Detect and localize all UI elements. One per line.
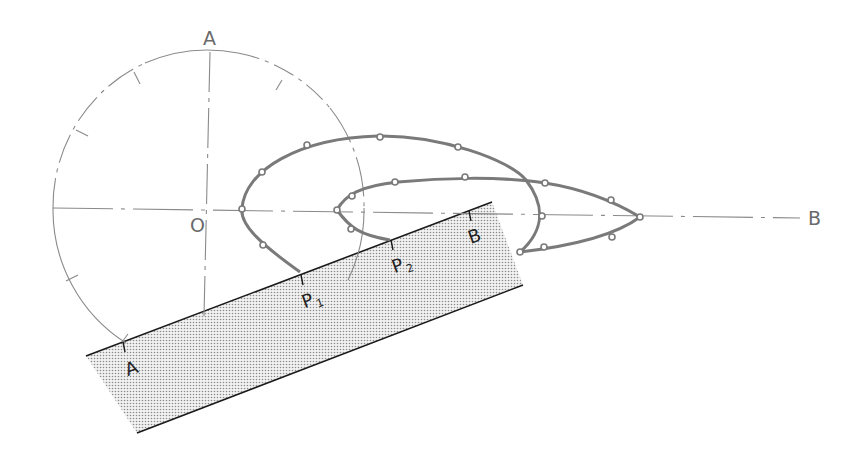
marker-point — [455, 144, 461, 150]
marker-point — [462, 174, 468, 180]
marker-point — [539, 213, 545, 219]
shaded-band — [86, 202, 523, 433]
tick-mark — [134, 72, 140, 84]
marker-point — [637, 214, 643, 220]
marker-point — [349, 193, 355, 199]
marker-point — [608, 197, 614, 203]
marker-point — [304, 142, 310, 148]
marker-point — [542, 180, 548, 186]
marker-point — [609, 234, 615, 240]
tick-mark — [76, 130, 88, 136]
marker-point — [348, 226, 354, 232]
marker-point — [259, 169, 265, 175]
label-axis-b: B — [808, 207, 821, 229]
tick-mark — [276, 80, 282, 90]
marker-point — [541, 244, 547, 250]
label-origin: O — [190, 214, 205, 236]
marker-point — [392, 179, 398, 185]
marker-point — [517, 249, 523, 255]
vertical-axis — [204, 52, 210, 316]
marker-point — [377, 134, 383, 140]
marker-point — [334, 207, 340, 213]
marker-point — [239, 206, 245, 212]
marker-point — [260, 242, 266, 248]
label-axis-a: A — [203, 27, 216, 49]
horizontal-axis-b — [53, 208, 800, 218]
diagram-canvas: A O B A P 1 P 2 B — [0, 0, 866, 462]
